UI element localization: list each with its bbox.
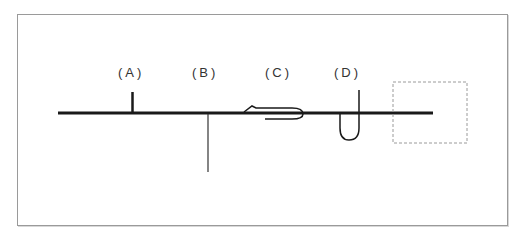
label-a: (A) [118, 65, 144, 80]
label-c: (C) [265, 65, 292, 80]
label-b: (B) [192, 65, 218, 80]
stitch-d-loop [340, 90, 359, 140]
diagram-canvas [0, 0, 526, 241]
label-d: (D) [334, 65, 361, 80]
